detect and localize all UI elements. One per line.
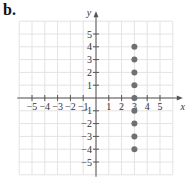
- y-tick-label: −4: [81, 144, 92, 155]
- x-tick-label: 2: [119, 101, 124, 112]
- y-axis-label: y: [86, 7, 92, 18]
- coordinate-plane: −5−4−3−2−112345−5−4−3−2−112345xy: [0, 0, 192, 180]
- data-point: [131, 121, 137, 127]
- x-tick-label: −2: [65, 101, 76, 112]
- data-point: [131, 57, 137, 63]
- y-tick-label: 4: [87, 41, 92, 52]
- x-tick-label: −4: [39, 101, 50, 112]
- x-tick-label: −3: [52, 101, 63, 112]
- y-tick-label: 2: [87, 67, 92, 78]
- x-axis-label: x: [180, 101, 186, 112]
- data-point: [131, 95, 137, 101]
- x-tick-label: 5: [158, 101, 163, 112]
- y-tick-label: −2: [81, 118, 92, 129]
- x-axis-arrow-icon: [177, 96, 183, 101]
- y-tick-label: −3: [81, 131, 92, 142]
- data-point: [131, 69, 137, 75]
- data-point: [131, 82, 137, 88]
- data-point: [131, 108, 137, 114]
- y-tick-label: 3: [87, 54, 92, 65]
- x-tick-label: 4: [145, 101, 150, 112]
- y-tick-label: 1: [87, 80, 92, 91]
- y-tick-label: −5: [81, 157, 92, 168]
- data-point: [131, 146, 137, 152]
- x-tick-label: 1: [106, 101, 111, 112]
- data-point: [131, 44, 137, 50]
- data-point: [131, 133, 137, 139]
- y-axis-arrow-icon: [94, 11, 99, 17]
- y-tick-label: −1: [81, 105, 92, 116]
- y-tick-label: 5: [87, 29, 92, 40]
- x-tick-label: −5: [27, 101, 38, 112]
